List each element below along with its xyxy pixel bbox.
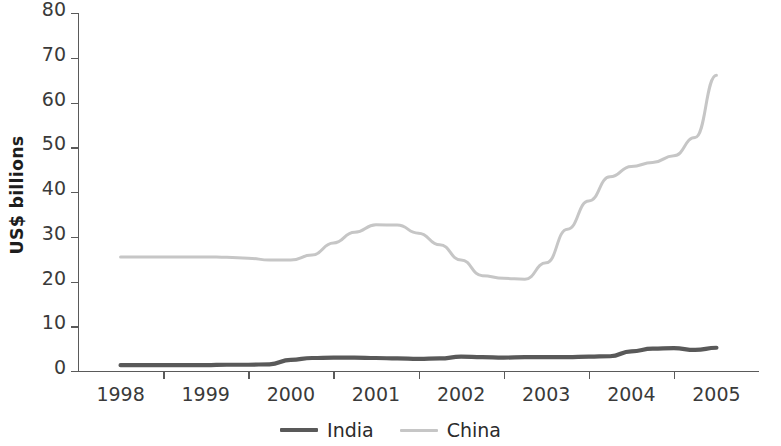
- series-line-china: [121, 75, 717, 279]
- series-line-india: [121, 348, 717, 365]
- legend-swatch-icon: [400, 429, 438, 432]
- legend-item-india[interactable]: India: [280, 421, 374, 440]
- plot-area: [0, 0, 781, 446]
- legend-label: China: [447, 421, 501, 440]
- chart-legend: IndiaChina: [0, 414, 781, 446]
- legend-item-china[interactable]: China: [400, 421, 501, 440]
- line-chart: US$ billions 01020304050607080 199819992…: [0, 0, 781, 446]
- legend-swatch-icon: [280, 428, 318, 432]
- legend-label: India: [327, 421, 374, 440]
